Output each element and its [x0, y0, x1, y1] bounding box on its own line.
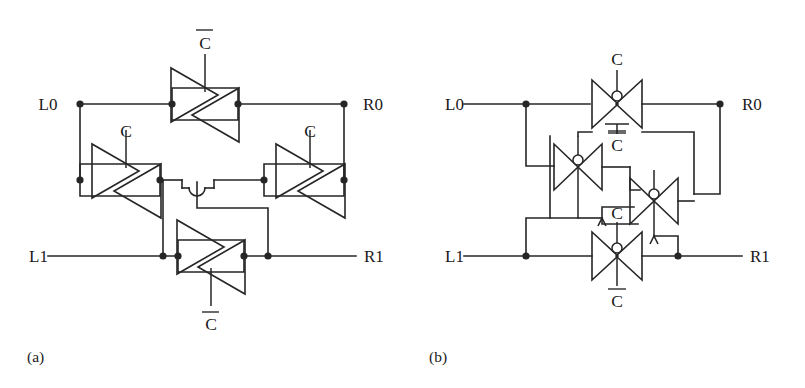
gate-bubble-b-left — [573, 155, 583, 165]
node-dot-l0 — [76, 100, 83, 107]
node-dot-a-bottom-right — [240, 252, 247, 259]
node-dot-a-bottom-left — [174, 252, 181, 259]
terminal-label-b-l1: L1 — [445, 247, 464, 266]
device-a-right[interactable]: C — [264, 121, 345, 218]
control-label-a-right: C — [304, 121, 316, 141]
node-dot-a-bottom-l-feed — [159, 252, 166, 259]
device-b-right[interactable] — [630, 170, 694, 236]
schematic-a: C L0 R0 C — [0, 0, 402, 388]
panel-caption-a: (a) — [27, 348, 44, 366]
schematic-b: C C L0 R0 — [402, 0, 805, 388]
panel-caption-b: (b) — [429, 348, 447, 366]
panel-b: C C L0 R0 — [402, 0, 805, 388]
control-label-b-bottom-bar: C — [611, 291, 623, 311]
terminal-label-b-l0: L0 — [445, 95, 464, 114]
node-dot-b-l0 — [522, 100, 529, 107]
control-label-b-top-bar: C — [611, 135, 623, 155]
control-label-a-bottom: C — [205, 314, 217, 334]
device-a-top[interactable]: C — [171, 30, 239, 142]
terminal-label-l1: L1 — [29, 247, 48, 266]
gate-bubble-b-right — [649, 189, 659, 199]
node-dot-a-top-left — [168, 100, 175, 107]
device-a-bottom[interactable]: C — [177, 220, 245, 334]
node-dot-a-bottom-r-feed — [264, 252, 271, 259]
node-dot-a-left-in — [76, 176, 83, 183]
control-label-a-top: C — [199, 33, 211, 53]
terminal-label-l0: L0 — [39, 95, 58, 114]
control-label-b-top: C — [611, 49, 623, 69]
terminal-label-r0: R0 — [363, 95, 383, 114]
node-dot-a-right-out — [340, 176, 347, 183]
wire-b-r0-to-right-gate — [694, 104, 720, 194]
panel-a: C L0 R0 C — [0, 0, 402, 388]
node-dot-a-top-right — [234, 100, 241, 107]
gate-bubble-b-bottom — [612, 243, 622, 253]
node-dot-b-l1 — [522, 252, 529, 259]
terminal-label-r1: R1 — [364, 247, 384, 266]
terminal-label-b-r1: R1 — [750, 247, 770, 266]
terminal-label-b-r0: R0 — [742, 95, 762, 114]
device-a-left[interactable]: C — [80, 121, 161, 218]
device-b-top[interactable]: C C — [592, 49, 642, 155]
figure-container: C L0 R0 C — [0, 0, 805, 388]
control-label-a-left: C — [120, 121, 132, 141]
node-dot-r0 — [340, 100, 347, 107]
gate-bubble-b-top — [612, 91, 622, 101]
control-label-b-bottom: C — [611, 203, 623, 223]
node-dot-b-r0 — [716, 100, 723, 107]
node-dot-b-r1-tap — [674, 252, 681, 259]
